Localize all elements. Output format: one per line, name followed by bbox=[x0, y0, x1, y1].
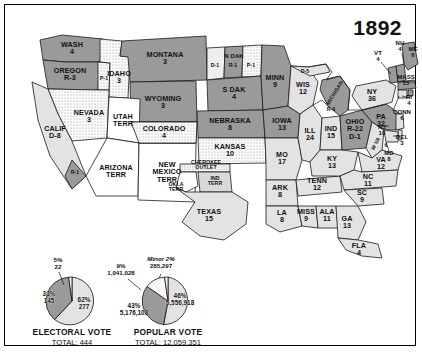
label-ill: ILL24 bbox=[304, 127, 315, 142]
statistics-area: ELECTORAL VOTE TOTAL: 444 62% 277 33% 14… bbox=[10, 257, 420, 351]
electoral-vote-title: ELECTORAL VOTE bbox=[24, 327, 120, 337]
label-calif: CALIFD-8 bbox=[44, 125, 66, 140]
label-ri: RI4 bbox=[406, 94, 412, 106]
label-me: ME6 bbox=[408, 46, 417, 58]
label-sdak: S DAK4 bbox=[223, 86, 246, 101]
popular-vote-total: TOTAL: 12,059,351 bbox=[113, 338, 223, 347]
label-iowa: IOWA13 bbox=[272, 117, 292, 132]
label-utah-terr: UTAHTERR bbox=[113, 113, 133, 128]
label-del: DEL3 bbox=[396, 134, 408, 146]
popular-label-minor: Minor 2% 285,297 bbox=[134, 256, 188, 269]
electoral-label-republican: 33% 145 bbox=[36, 291, 62, 304]
label-sc: SC9 bbox=[357, 189, 367, 204]
label-kansas: KANSAS10 bbox=[215, 143, 246, 158]
popular-label-democratic: 46% 5,556,918 bbox=[160, 293, 200, 306]
label-nc: NC11 bbox=[363, 173, 374, 188]
us-map: 1892 WASH4 OREGONR-3 P-1 IDAHO3 MONTANA3… bbox=[10, 10, 420, 260]
label-montana: MONTANA3 bbox=[147, 51, 184, 66]
label-okla-terr: OKLATERR bbox=[168, 182, 183, 193]
label-md: MD8 bbox=[384, 150, 394, 162]
label-cherokee-outlet: CHEROKEEOUTLET bbox=[191, 160, 221, 171]
map-year-title: 1892 bbox=[353, 16, 402, 40]
label-wyoming: WYOMING3 bbox=[145, 95, 182, 110]
label-nevada: NEVADA3 bbox=[74, 109, 104, 124]
label-wis: WIS12 bbox=[296, 81, 310, 96]
label-calif-r1: R-1 bbox=[71, 170, 80, 175]
label-vt: VT4 bbox=[374, 50, 382, 62]
label-michigan-r9: R-9 bbox=[327, 107, 336, 112]
label-la: LA8 bbox=[277, 209, 287, 224]
label-nh: NH4 bbox=[396, 40, 405, 52]
label-texas: TEXAS15 bbox=[197, 208, 221, 223]
label-ndak-d: D-1 bbox=[211, 63, 220, 68]
label-ndak: N DAK bbox=[224, 53, 244, 59]
label-ala: ALA11 bbox=[319, 208, 334, 223]
electoral-label-populist: 5% 22 bbox=[44, 257, 72, 270]
label-conn: CONN6 bbox=[393, 109, 411, 121]
label-ark: ARK8 bbox=[272, 184, 288, 199]
state-ndak-pop bbox=[242, 45, 262, 77]
label-miss: MISS9 bbox=[297, 208, 315, 223]
label-oregon: OREGONR-3 bbox=[54, 67, 87, 82]
label-ndak-p: P-1 bbox=[247, 63, 255, 68]
label-michigan-d5: D-5 bbox=[301, 69, 310, 74]
label-nebraska: NEBRASKA8 bbox=[209, 117, 251, 132]
label-wash: WASH4 bbox=[61, 41, 83, 56]
label-colorado: COLORADO4 bbox=[143, 125, 186, 140]
electoral-vote-chart: ELECTORAL VOTE TOTAL: 444 bbox=[24, 275, 120, 347]
label-minn: MINN9 bbox=[266, 74, 285, 89]
election-map-figure: 1892 WASH4 OREGONR-3 P-1 IDAHO3 MONTANA3… bbox=[0, 0, 422, 352]
electoral-label-democratic: 62% 277 bbox=[71, 297, 97, 310]
label-ind-terr: INDTERR bbox=[208, 176, 223, 187]
label-mass: MASS15 bbox=[397, 74, 415, 86]
label-ohio: OHIOR-22D-1 bbox=[346, 118, 365, 140]
label-nj: NJ10 bbox=[378, 124, 386, 136]
label-tenn: TENN12 bbox=[307, 177, 327, 192]
label-fla: FLA4 bbox=[352, 242, 366, 257]
label-ky: KY13 bbox=[327, 155, 337, 170]
electoral-vote-total: TOTAL: 444 bbox=[24, 338, 120, 347]
label-ny: NY36 bbox=[367, 88, 377, 103]
label-arizona-terr: ARIZONATERR bbox=[99, 164, 132, 179]
label-ga: GA13 bbox=[342, 215, 353, 230]
label-mo: MO17 bbox=[276, 151, 288, 166]
popular-vote-title: POPULAR VOTE bbox=[113, 327, 223, 337]
label-ndak-r: R-1 bbox=[229, 63, 238, 68]
label-ind: IND15 bbox=[325, 125, 338, 140]
popular-label-republican: 43% 5,176,108 bbox=[114, 303, 154, 316]
label-wva-votes: 6 bbox=[385, 143, 388, 148]
label-idaho: IDAHO3 bbox=[107, 70, 131, 85]
figure-frame: 1892 WASH4 OREGONR-3 P-1 IDAHO3 MONTANA3… bbox=[4, 4, 416, 346]
